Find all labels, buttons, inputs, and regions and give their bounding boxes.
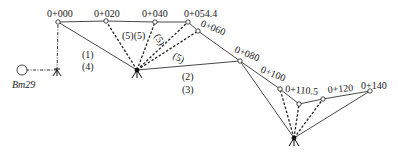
benchmark-label: Bm29 xyxy=(12,79,35,90)
annotation-1: (1) xyxy=(82,49,94,61)
label-0120: 0+120 xyxy=(327,82,354,95)
point-0060-icon xyxy=(196,29,200,33)
label-01105: 0+110.5 xyxy=(285,83,319,97)
annotation-5b: (5) xyxy=(171,50,187,66)
benchmark-icon xyxy=(17,65,27,75)
sight-s2-0060 xyxy=(137,31,198,70)
station1-to-0000-line xyxy=(57,25,58,70)
label-0100: 0+100 xyxy=(259,64,287,84)
label-00544: 0+054.4 xyxy=(184,8,217,19)
point-0080-icon xyxy=(238,59,242,63)
label-0140: 0+140 xyxy=(361,80,387,91)
annotation-2: (2) xyxy=(182,71,194,83)
point-00544-icon xyxy=(186,20,190,24)
leveling-route-diagram: Bm29 0+000 0+020 0+040 0+054.4 0+060 0+0… xyxy=(0,0,398,163)
sight-s2-0020 xyxy=(106,21,137,70)
annotation-4: (4) xyxy=(82,61,94,73)
annotation-5a: (5) xyxy=(151,32,167,48)
label-0040: 0+040 xyxy=(142,8,168,19)
sight-s3-0100 xyxy=(280,89,294,138)
turn-line-s2-0080 xyxy=(137,61,240,70)
point-0020-icon xyxy=(104,19,108,23)
annotation-3: (3) xyxy=(182,84,194,96)
label-0000: 0+000 xyxy=(47,8,73,19)
turn-line-s3-0140 xyxy=(294,91,370,138)
point-0000-icon xyxy=(56,20,60,24)
station-3-tripod-icon xyxy=(289,136,299,146)
point-0040-icon xyxy=(153,20,157,24)
point-0100-icon xyxy=(278,87,282,91)
point-01105-icon xyxy=(297,102,301,106)
label-0020: 0+020 xyxy=(94,8,120,19)
annotation-55: (5)(5) xyxy=(122,30,145,42)
point-0120-icon xyxy=(321,97,325,101)
